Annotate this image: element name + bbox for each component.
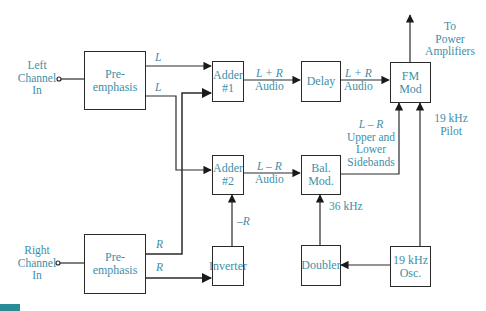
signal-sidebands: L – R Upper and Lower Sidebands bbox=[346, 118, 396, 168]
osc-label-line2: Osc. bbox=[400, 267, 422, 280]
left-input-line1: Left bbox=[14, 59, 60, 72]
oscillator-19khz-block: 19 kHz Osc. bbox=[390, 246, 431, 287]
sidebands-line1: L – R bbox=[346, 118, 396, 131]
right-input-line3: In bbox=[14, 269, 60, 282]
signal-pilot: 19 kHz Pilot bbox=[430, 112, 472, 137]
output-line1: To bbox=[422, 20, 478, 33]
signal-l-top: L bbox=[155, 51, 161, 64]
pre-emphasis-left-label: Pre-emphasis bbox=[85, 68, 145, 94]
doubler-block: Doubler bbox=[301, 245, 341, 286]
sum-audio-1-line1: L + R bbox=[255, 67, 284, 80]
bal-mod-label-line2: Mod. bbox=[308, 175, 334, 188]
diff-audio-line1: L – R bbox=[255, 160, 284, 173]
osc-label-line1: 19 kHz bbox=[393, 254, 428, 267]
signal-sum-audio-2: L + R Audio bbox=[344, 67, 373, 92]
pre-emphasis-right-label: Pre-emphasis bbox=[85, 251, 145, 277]
output-label: To Power Amplifiers bbox=[422, 20, 478, 58]
sum-audio-2-line1: L + R bbox=[344, 67, 373, 80]
right-input-line2: Channel bbox=[14, 257, 60, 270]
sidebands-line2: Upper and bbox=[346, 131, 396, 144]
signal-36khz: 36 kHz bbox=[329, 200, 363, 213]
right-input-line1: Right bbox=[14, 244, 60, 257]
inverter-block: Inverter bbox=[212, 246, 244, 286]
signal-r-top: R bbox=[156, 238, 163, 251]
signal-diff-audio: L – R Audio bbox=[255, 160, 284, 185]
signal-r-bottom: R bbox=[156, 261, 163, 274]
fm-mod-label-line2: Mod bbox=[399, 83, 422, 96]
pilot-line2: Pilot bbox=[430, 125, 472, 138]
sidebands-line3: Lower bbox=[346, 143, 396, 156]
adder2-label-line2: #2 bbox=[222, 175, 234, 188]
delay-label: Delay bbox=[307, 75, 336, 88]
pre-emphasis-right-block: Pre-emphasis bbox=[84, 234, 146, 294]
delay-block: Delay bbox=[301, 61, 341, 102]
diff-audio-line2: Audio bbox=[255, 173, 284, 186]
adder1-block: Adder #1 bbox=[212, 61, 244, 102]
pilot-line1: 19 kHz bbox=[430, 112, 472, 125]
adder2-block: Adder #2 bbox=[212, 155, 244, 195]
signal-sum-audio-1: L + R Audio bbox=[255, 67, 284, 92]
left-channel-input-label: Left Channel In bbox=[14, 59, 60, 97]
adder1-label-line1: Adder bbox=[213, 69, 243, 82]
sum-audio-2-line2: Audio bbox=[344, 80, 373, 93]
left-input-line3: In bbox=[14, 84, 60, 97]
fm-mod-block: FM Mod bbox=[390, 62, 431, 103]
output-line2: Power bbox=[422, 33, 478, 46]
pre-emphasis-left-block: Pre-emphasis bbox=[84, 51, 146, 110]
sidebands-line4: Sidebands bbox=[346, 156, 396, 169]
sum-audio-1-line2: Audio bbox=[255, 80, 284, 93]
inverter-label: Inverter bbox=[209, 260, 247, 273]
adder1-label-line2: #1 bbox=[222, 82, 234, 95]
bal-mod-block: Bal. Mod. bbox=[301, 155, 341, 195]
right-channel-input-label: Right Channel In bbox=[14, 244, 60, 282]
fm-mod-label-line1: FM bbox=[402, 70, 419, 83]
doubler-label: Doubler bbox=[301, 259, 340, 272]
page-accent-bar bbox=[0, 304, 20, 311]
output-line3: Amplifiers bbox=[422, 45, 478, 58]
signal-neg-r: –R bbox=[237, 215, 250, 228]
signal-l-bottom: L bbox=[155, 81, 161, 94]
left-input-line2: Channel bbox=[14, 72, 60, 85]
